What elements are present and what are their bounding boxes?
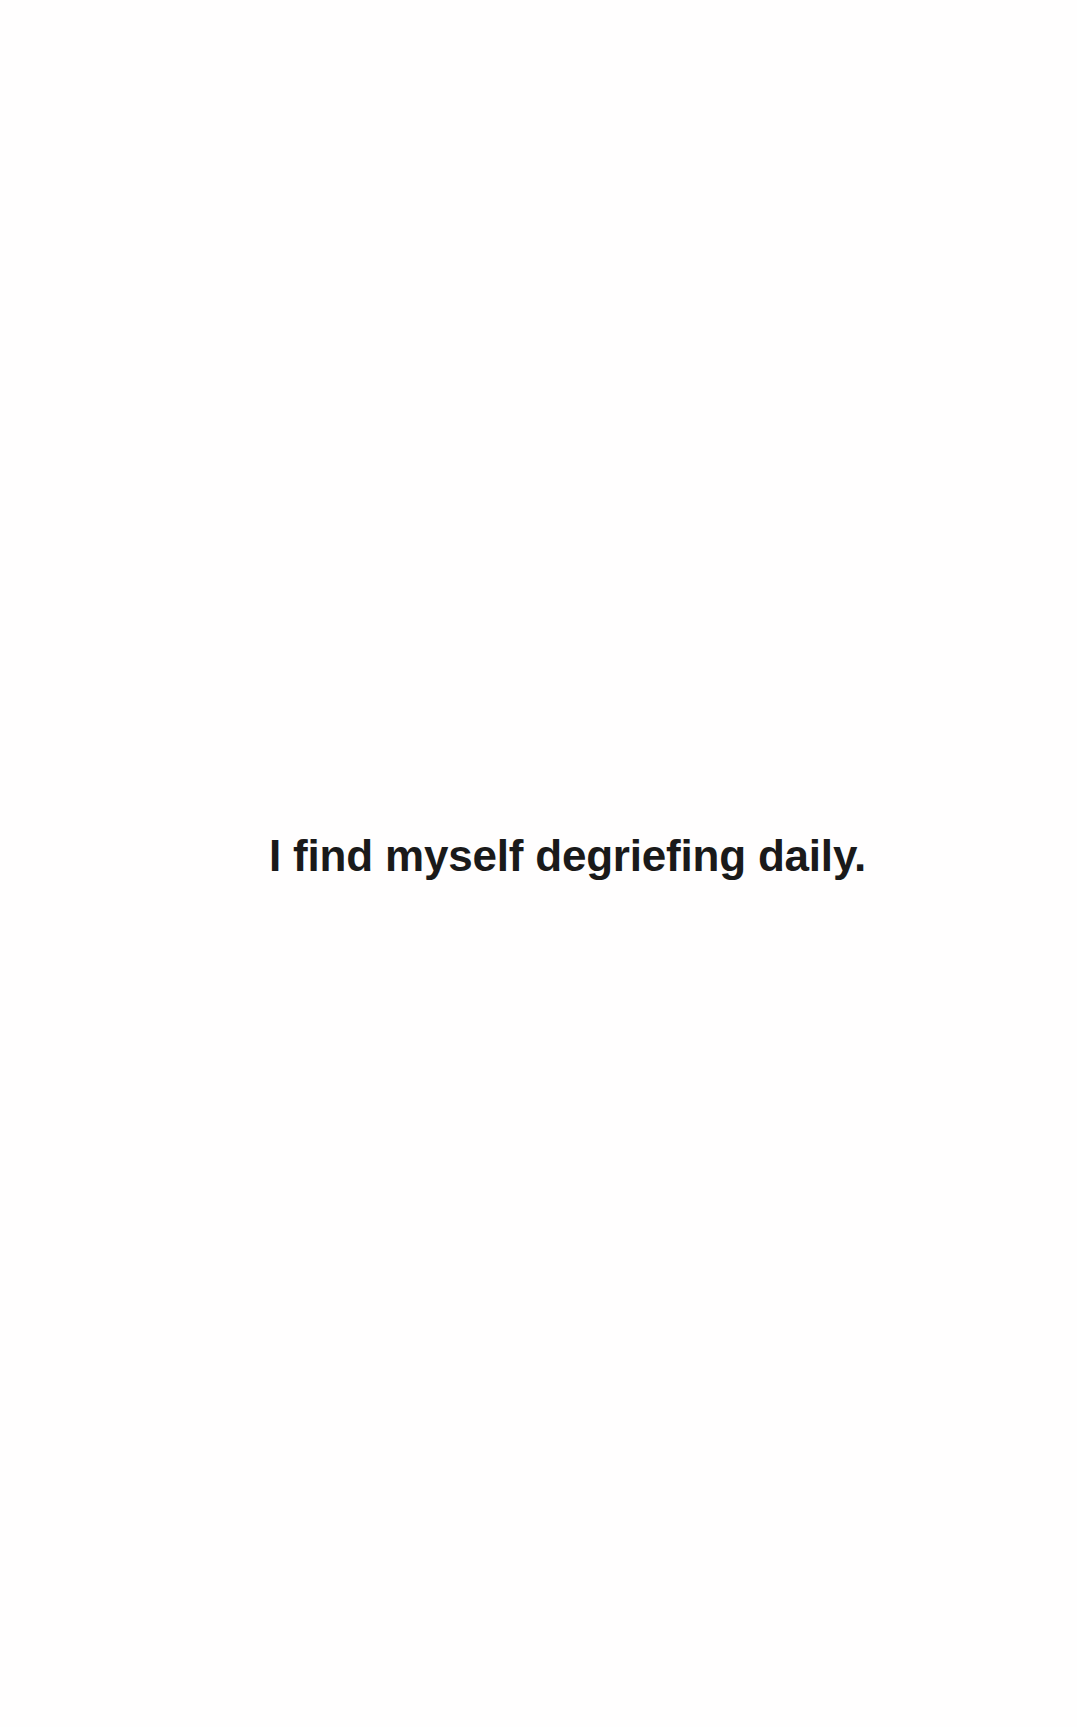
page-text-line: I find myself degriefing daily. <box>0 830 1077 882</box>
scanned-page: I find myself degriefing daily. <box>0 0 1077 1727</box>
